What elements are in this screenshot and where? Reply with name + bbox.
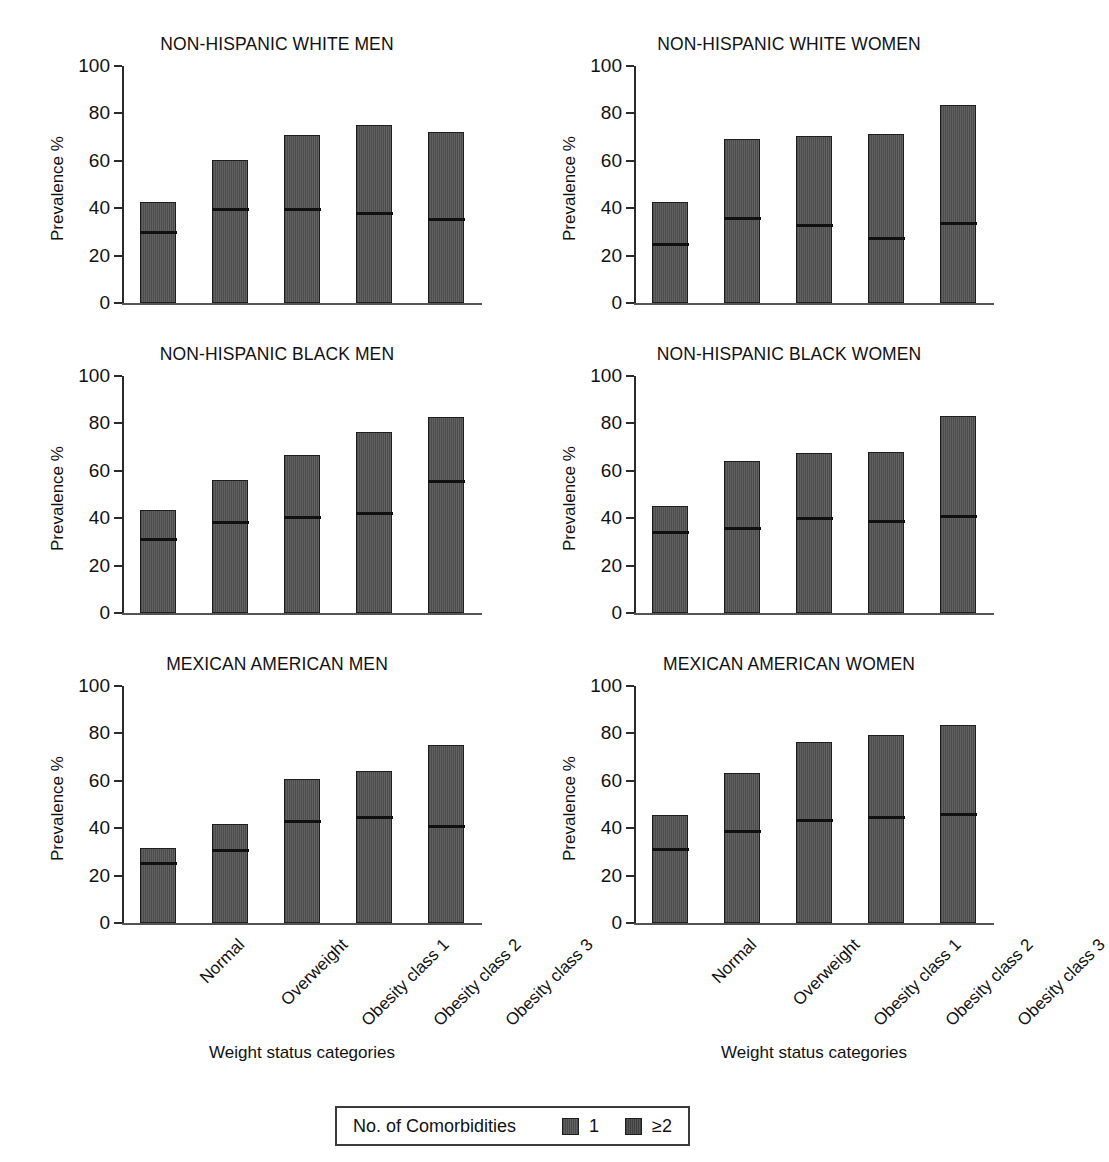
plot-area: 020406080100NormalOverweightObesity clas… — [122, 686, 482, 923]
stacked-bar — [796, 742, 832, 923]
stacked-bar — [212, 824, 248, 923]
stacked-bar — [796, 453, 832, 613]
plot-area: 020406080100 — [634, 376, 994, 613]
bar-segment-divider — [724, 527, 761, 530]
stacked-bar — [284, 455, 320, 613]
stacked-bar — [724, 461, 760, 613]
y-axis-tick-label: 40 — [89, 507, 110, 529]
y-axis-tick — [626, 375, 634, 377]
y-axis-line — [634, 376, 636, 613]
legend-entry[interactable]: 1 — [562, 1116, 599, 1137]
x-axis-category-label: Overweight — [277, 935, 352, 1010]
y-axis-tick-label: 40 — [601, 507, 622, 529]
stacked-bar — [868, 452, 904, 613]
stacked-bar — [868, 735, 904, 923]
y-axis-line — [122, 376, 124, 613]
y-axis-tick — [626, 922, 634, 924]
legend-entry[interactable]: ≥2 — [625, 1116, 672, 1137]
y-axis-tick — [626, 517, 634, 519]
y-axis-title: Prevalence % — [560, 136, 580, 241]
stacked-bar — [724, 139, 760, 303]
stacked-bar — [868, 134, 904, 303]
chart-panel: MEXICAN AMERICAN MEN020406080100NormalOv… — [18, 654, 510, 1054]
y-axis-tick-label: 100 — [590, 675, 622, 697]
x-axis-title: Weight status categories — [634, 1043, 994, 1063]
legend-title: No. of Comorbidities — [353, 1116, 516, 1137]
stacked-bar — [652, 506, 688, 613]
y-axis-line — [634, 686, 636, 923]
y-axis-tick — [626, 207, 634, 209]
stacked-bar — [428, 417, 464, 613]
bar-segment-divider — [428, 218, 465, 221]
plot-area: 020406080100 — [122, 66, 482, 303]
y-axis-tick — [626, 875, 634, 877]
y-axis-tick-label: 100 — [78, 675, 110, 697]
y-axis-tick-label: 100 — [78, 55, 110, 77]
bar-segment-divider — [212, 849, 249, 852]
x-axis-line — [122, 923, 482, 925]
bar-segment-divider — [428, 480, 465, 483]
stacked-bar — [212, 160, 248, 303]
bar-segment-divider — [140, 862, 177, 865]
bar-segment-divider — [868, 520, 905, 523]
one-comorbidity-swatch — [562, 1118, 579, 1135]
chart-panel: NON-HISPANIC BLACK MEN020406080100Preval… — [18, 344, 510, 644]
y-axis-tick — [626, 112, 634, 114]
legend-entry-label: ≥2 — [652, 1116, 672, 1137]
y-axis-tick — [114, 112, 122, 114]
y-axis-title: Prevalence % — [560, 756, 580, 861]
y-axis-tick-label: 80 — [601, 412, 622, 434]
y-axis-tick — [626, 612, 634, 614]
y-axis-tick-label: 20 — [601, 865, 622, 887]
chart-panel: NON-HISPANIC WHITE MEN020406080100Preval… — [18, 34, 510, 334]
y-axis-title: Prevalence % — [48, 136, 68, 241]
y-axis-tick-label: 80 — [601, 722, 622, 744]
y-axis-tick — [114, 827, 122, 829]
bar-segment-divider — [796, 224, 833, 227]
bar-segment-divider — [940, 515, 977, 518]
y-axis-tick-label: 0 — [99, 292, 110, 314]
y-axis-tick — [114, 207, 122, 209]
panel-title: MEXICAN AMERICAN MEN — [62, 654, 492, 675]
x-axis-category-label: Overweight — [789, 935, 864, 1010]
y-axis-tick — [114, 302, 122, 304]
y-axis-tick — [626, 827, 634, 829]
y-axis-tick-label: 60 — [601, 150, 622, 172]
y-axis-tick — [114, 65, 122, 67]
bar-segment-divider — [940, 813, 977, 816]
y-axis-tick-label: 80 — [89, 722, 110, 744]
y-axis-tick — [626, 780, 634, 782]
x-axis-line — [634, 923, 994, 925]
stacked-bar — [356, 125, 392, 303]
y-axis-tick-label: 20 — [89, 555, 110, 577]
y-axis-tick-label: 60 — [89, 460, 110, 482]
bar-segment-divider — [140, 538, 177, 541]
stacked-bar — [284, 135, 320, 303]
y-axis-tick — [626, 255, 634, 257]
bar-segment-divider — [212, 208, 249, 211]
y-axis-tick — [626, 565, 634, 567]
legend-entry-label: 1 — [589, 1116, 599, 1137]
y-axis-tick-label: 0 — [611, 912, 622, 934]
panel-title: NON-HISPANIC BLACK WOMEN — [574, 344, 1004, 365]
y-axis-tick-label: 60 — [601, 770, 622, 792]
y-axis-tick — [114, 160, 122, 162]
panel-title: MEXICAN AMERICAN WOMEN — [574, 654, 1004, 675]
bar-segment-divider — [796, 819, 833, 822]
y-axis-tick-label: 20 — [601, 245, 622, 267]
x-axis-category-label: Normal — [196, 935, 249, 988]
y-axis-tick-label: 60 — [89, 150, 110, 172]
y-axis-tick — [626, 302, 634, 304]
bar-segment-divider — [284, 820, 321, 823]
y-axis-tick-label: 20 — [89, 865, 110, 887]
stacked-bar — [940, 105, 976, 303]
stacked-bar — [140, 510, 176, 613]
y-axis-tick-label: 0 — [99, 602, 110, 624]
x-axis-line — [634, 303, 994, 305]
stacked-bar — [796, 136, 832, 303]
stacked-bar — [356, 771, 392, 923]
y-axis-tick — [114, 780, 122, 782]
y-axis-tick-label: 80 — [89, 412, 110, 434]
panel-title: NON-HISPANIC WHITE MEN — [62, 34, 492, 55]
y-axis-tick-label: 60 — [89, 770, 110, 792]
